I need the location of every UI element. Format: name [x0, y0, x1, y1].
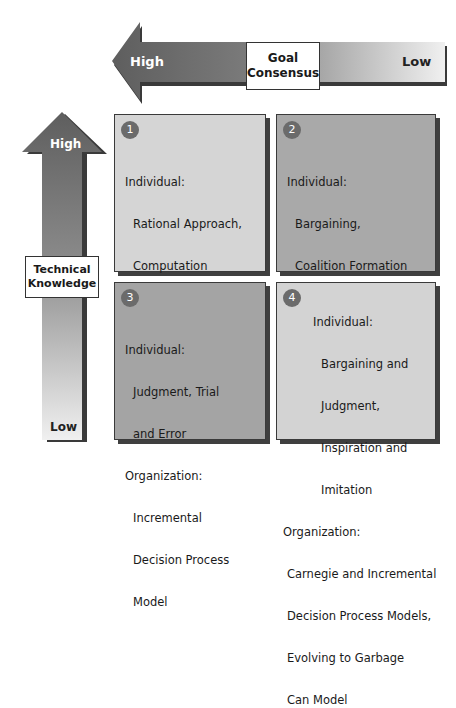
individual-item: Coalition Formation — [287, 259, 407, 273]
individual-item: Judgment, — [283, 399, 436, 413]
quadrant-3: 3 Individual: Judgment, Trial and Error … — [114, 282, 266, 440]
tech-low-label: Low — [50, 420, 77, 434]
individual-item: Imitation — [283, 483, 436, 497]
quadrant-2: 2 Individual: Bargaining, Coalition Form… — [276, 114, 436, 272]
goal-high-label: High — [130, 54, 164, 69]
quadrant-number-badge: 3 — [121, 289, 139, 307]
organization-item: Model — [125, 595, 229, 609]
individual-item: Computation — [125, 259, 242, 273]
tech-title-line2: Knowledge — [28, 277, 97, 291]
organization-item: Decision Process — [125, 553, 229, 567]
goal-consensus-label: Goal Consensus — [246, 42, 320, 90]
organization-item: Evolving to Garbage — [283, 651, 436, 665]
individual-label: Individual: — [125, 343, 229, 357]
individual-label: Individual: — [125, 175, 242, 189]
individual-label: Individual: — [283, 315, 436, 329]
individual-item: Inspiration and — [283, 441, 436, 455]
tech-title-line1: Technical — [33, 263, 90, 277]
quadrant-number-badge: 2 — [283, 121, 301, 139]
individual-item: Bargaining and — [283, 357, 436, 371]
goal-low-label: Low — [402, 54, 431, 69]
tech-high-label: High — [50, 137, 81, 151]
goal-title-line2: Consensus — [247, 66, 319, 81]
goal-title-line1: Goal — [268, 51, 298, 66]
individual-item: Judgment, Trial — [125, 385, 229, 399]
quadrant-text: Individual: Judgment, Trial and Error Or… — [125, 315, 229, 637]
organization-label: Organization: — [125, 469, 229, 483]
organization-item: Can Model — [283, 693, 436, 707]
organization-item: Carnegie and Incremental — [283, 567, 436, 581]
quadrant-text: Individual: Bargaining and Judgment, Ins… — [283, 287, 436, 708]
individual-item: and Error — [125, 427, 229, 441]
individual-item: Bargaining, — [287, 217, 407, 231]
individual-item: Rational Approach, — [125, 217, 242, 231]
organization-label: Organization: — [283, 525, 436, 539]
organization-item: Decision Process Models, — [283, 609, 436, 623]
organization-item: Incremental — [125, 511, 229, 525]
individual-label: Individual: — [287, 175, 407, 189]
technical-knowledge-label: Technical Knowledge — [25, 256, 99, 298]
quadrant-number-badge: 1 — [121, 121, 139, 139]
quadrant-4: 4 Individual: Bargaining and Judgment, I… — [276, 282, 436, 440]
quadrant-1: 1 Individual: Rational Approach, Computa… — [114, 114, 266, 272]
